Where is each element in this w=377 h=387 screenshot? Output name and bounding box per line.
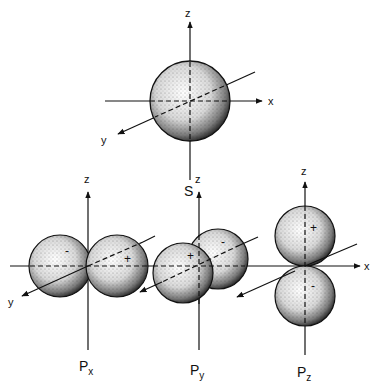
px-sign-positive: + [124, 252, 131, 266]
px-label: Px [79, 358, 93, 377]
z-axis-label: z [195, 173, 201, 185]
pz-sign-negative: - [311, 279, 315, 293]
pz-sign-positive: + [310, 221, 317, 235]
z-axis-label: z [185, 7, 191, 19]
z-axis-label: z [301, 165, 307, 177]
s-orbital: z x y S [101, 7, 274, 199]
py-label: Py [190, 362, 204, 381]
py-lobe-positive [153, 243, 213, 303]
x-axis-label: x [268, 95, 274, 107]
y-axis-label: y [101, 134, 107, 146]
orbital-diagram: z x y S - + z y Px [0, 0, 377, 387]
pz-orbital: + - z x Pz [237, 165, 370, 383]
py-sign-negative: - [221, 235, 225, 249]
s-orbital-label: S [184, 183, 193, 199]
pz-label: Pz [297, 364, 311, 383]
x-axis-label: x [364, 260, 370, 272]
px-sign-negative: - [65, 244, 69, 258]
z-axis-label: z [84, 173, 90, 185]
py-sign-positive: + [187, 249, 194, 263]
y-axis-label: y [8, 296, 14, 308]
py-orbital: + - z Py [140, 173, 258, 381]
